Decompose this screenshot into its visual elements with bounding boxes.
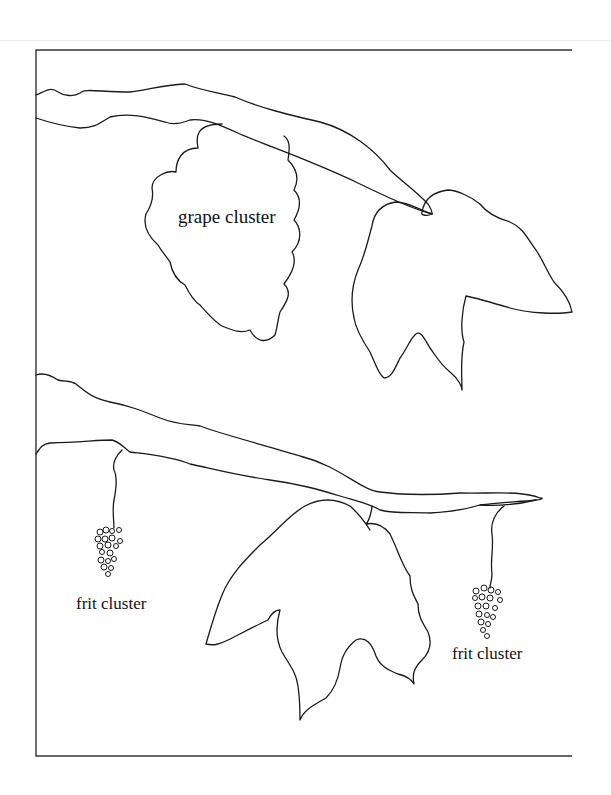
upper-grape-leaf	[352, 190, 572, 390]
frit-cluster-right-label: frit cluster	[452, 644, 522, 664]
frit-cluster-left-label: frit cluster	[76, 594, 146, 614]
grape-cluster-outline	[145, 124, 300, 340]
lower-vine-branch	[36, 374, 542, 513]
diagram-canvas: grape cluster frit cluster frit cluster	[0, 0, 611, 795]
frit-cluster-left	[95, 450, 123, 577]
upper-vine-branch	[36, 84, 432, 214]
lower-grape-leaf	[206, 500, 430, 720]
vine-illustration	[0, 0, 611, 795]
grape-cluster-label: grape cluster	[178, 206, 276, 228]
frit-cluster-right	[473, 506, 505, 639]
